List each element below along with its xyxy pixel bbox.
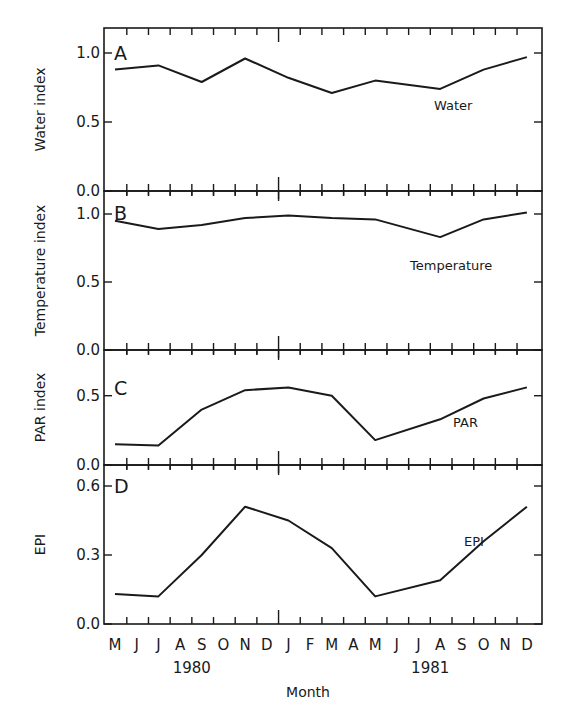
- month-label: S: [197, 636, 207, 654]
- y-tick-label: 0.0: [76, 615, 100, 633]
- panel-b: 0.00.51.0BTemperatureTemperature index: [32, 191, 542, 360]
- year-label: 1980: [173, 659, 211, 677]
- series-line-epi: [115, 507, 527, 597]
- y-tick-label: 0.5: [76, 387, 100, 405]
- month-label: O: [217, 636, 229, 654]
- month-label: A: [175, 636, 186, 654]
- panel-c: 0.00.5CPARPAR index: [32, 350, 542, 475]
- four-panel-line-chart: 0.00.51.0AWaterWater index0.00.51.0BTemp…: [0, 0, 567, 719]
- panel-letter: A: [114, 42, 127, 64]
- y-tick-label: 0.0: [76, 456, 100, 474]
- panel-frame: [104, 350, 542, 465]
- x-axis-title: Month: [286, 684, 330, 700]
- panels: 0.00.51.0AWaterWater index0.00.51.0BTemp…: [32, 28, 542, 633]
- month-label: N: [239, 636, 250, 654]
- month-label: M: [369, 636, 382, 654]
- y-tick-label: 0.5: [76, 273, 100, 291]
- month-label: F: [306, 636, 315, 654]
- month-label: O: [478, 636, 490, 654]
- month-label: D: [521, 636, 533, 654]
- y-tick-label: 1.0: [76, 44, 100, 62]
- y-axis-title: PAR index: [32, 373, 48, 443]
- month-label: N: [500, 636, 511, 654]
- y-axis-title: Water index: [32, 67, 48, 151]
- series-label: Water: [434, 98, 473, 113]
- month-label: A: [435, 636, 446, 654]
- series-label: Temperature: [409, 258, 492, 273]
- y-axis-title: Temperature index: [32, 205, 48, 337]
- panel-a: 0.00.51.0AWaterWater index: [32, 28, 542, 201]
- series-line-temperature: [115, 213, 527, 238]
- panel-d: 0.00.30.6DEPIEPI: [32, 465, 542, 633]
- month-label: M: [325, 636, 338, 654]
- series-label: EPI: [464, 534, 484, 549]
- x-axis: MJJASONDJFMAMJJASOND19801981Month: [109, 636, 533, 700]
- month-label: J: [155, 636, 160, 654]
- y-tick-label: 1.0: [76, 205, 100, 223]
- month-label: D: [261, 636, 273, 654]
- series-line-water: [115, 57, 527, 93]
- y-tick-label: 0.5: [76, 113, 100, 131]
- month-label: J: [394, 636, 399, 654]
- month-label: J: [285, 636, 290, 654]
- month-label: J: [133, 636, 138, 654]
- panel-letter: C: [114, 377, 127, 399]
- month-label: M: [109, 636, 122, 654]
- month-label: J: [415, 636, 420, 654]
- panel-frame: [104, 28, 542, 191]
- y-tick-label: 0.0: [76, 182, 100, 200]
- y-tick-label: 0.6: [76, 477, 100, 495]
- month-label: A: [348, 636, 359, 654]
- year-label: 1981: [411, 659, 449, 677]
- month-label: S: [457, 636, 467, 654]
- y-axis-title: EPI: [32, 534, 48, 555]
- y-tick-label: 0.0: [76, 341, 100, 359]
- series-label: PAR: [453, 415, 478, 430]
- y-tick-label: 0.3: [76, 546, 100, 564]
- panel-letter: D: [114, 475, 129, 497]
